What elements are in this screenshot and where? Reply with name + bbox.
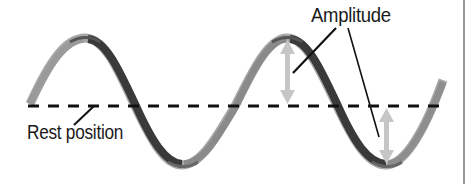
amplitude-arrow-trough bbox=[379, 108, 394, 164]
amplitude-label: Amplitude bbox=[311, 3, 391, 27]
frame-border bbox=[463, 0, 465, 184]
wave-ribbon bbox=[30, 38, 443, 167]
wave-diagram bbox=[0, 0, 473, 184]
rest-position-label: Rest position bbox=[27, 121, 123, 144]
amplitude-leader-trough bbox=[348, 28, 379, 137]
